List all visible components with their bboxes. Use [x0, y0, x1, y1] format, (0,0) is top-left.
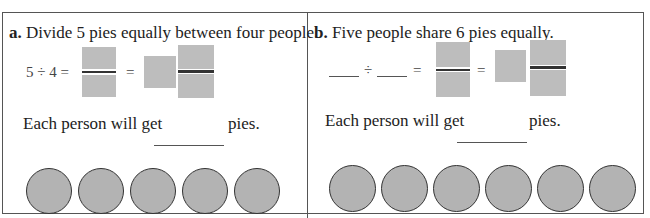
divide-sign: ÷: [364, 62, 372, 79]
problem-a-panel: a. Divide 5 pies equally between four pe…: [2, 12, 307, 214]
fraction-numerator-box[interactable]: [82, 47, 116, 69]
pie-icon: [78, 168, 124, 214]
pie-icon: [537, 165, 584, 212]
problem-b-panel: b. Five people share 6 pies equally. ÷ =…: [309, 12, 644, 214]
mixed-fraction-bar: [178, 70, 214, 73]
mixed-whole-box[interactable]: [495, 50, 526, 82]
problem-a-expression: 5 ÷ 4 =: [26, 64, 69, 81]
problem-b-answer-suffix: pies.: [529, 111, 561, 131]
mixed-fraction-bar: [530, 66, 566, 69]
problem-b-answer-blank[interactable]: [457, 142, 527, 143]
pie-icon: [26, 168, 72, 214]
fraction-bar: [436, 69, 470, 71]
dividend-blank[interactable]: [329, 76, 359, 77]
problem-b-prompt: b. Five people share 6 pies equally.: [314, 23, 554, 43]
fraction-denominator-box[interactable]: [436, 72, 470, 97]
pie-icon: [234, 168, 280, 214]
equals-sign: =: [413, 62, 421, 79]
mixed-whole-box[interactable]: [144, 56, 176, 88]
problem-b-pies: [329, 165, 641, 212]
mixed-numerator-box[interactable]: [178, 45, 214, 69]
pie-icon: [182, 168, 228, 214]
pie-icon: [485, 165, 532, 212]
pie-icon: [433, 165, 480, 212]
problem-a-prompt: a. Divide 5 pies equally between four pe…: [9, 23, 318, 43]
problem-a-pies: [26, 168, 286, 214]
problem-a-answer-suffix: pies.: [228, 114, 260, 134]
mixed-numerator-box[interactable]: [530, 40, 566, 65]
problem-a-answer-prefix: Each person will get: [23, 114, 162, 134]
divide-sign: ÷: [37, 64, 45, 80]
divisor: 4: [49, 64, 57, 80]
equals-sign-2: =: [477, 62, 485, 79]
pie-icon: [381, 165, 428, 212]
divisor-blank[interactable]: [377, 76, 407, 77]
pie-icon: [329, 165, 376, 212]
problem-b-answer-prefix: Each person will get: [325, 111, 464, 131]
equals-sign: =: [60, 64, 68, 80]
problem-b-letter: b.: [314, 23, 328, 42]
pie-icon: [589, 165, 636, 212]
problem-b-text: Five people share 6 pies equally.: [332, 23, 554, 42]
problem-a-text: Divide 5 pies equally between four peopl…: [26, 23, 318, 42]
dividend: 5: [26, 64, 34, 80]
fraction-numerator-box[interactable]: [436, 42, 470, 67]
equals-sign-2: =: [126, 64, 134, 81]
problem-a-letter: a.: [9, 23, 22, 42]
mixed-denominator-box[interactable]: [530, 70, 566, 96]
pie-icon: [130, 168, 176, 214]
fraction-bar: [82, 71, 116, 73]
mixed-denominator-box[interactable]: [178, 74, 214, 98]
problem-a-answer-blank[interactable]: [154, 145, 224, 146]
fraction-denominator-box[interactable]: [82, 75, 116, 97]
